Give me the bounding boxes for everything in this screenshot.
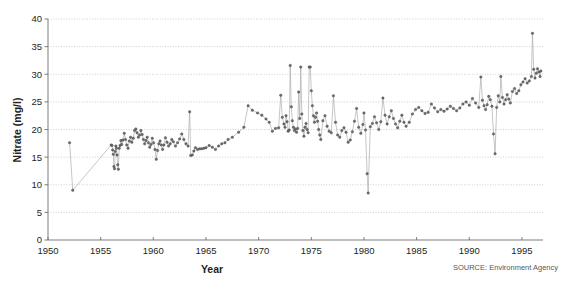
data-point-marker — [314, 116, 317, 119]
data-point-marker — [373, 116, 376, 119]
data-point-marker — [123, 132, 126, 135]
data-point-marker — [384, 114, 387, 117]
data-point-marker — [118, 147, 121, 150]
data-point-marker — [155, 158, 158, 161]
data-point-marker — [492, 133, 495, 136]
data-point-marker — [117, 168, 120, 171]
data-point-marker — [499, 101, 502, 104]
data-point-marker — [135, 128, 138, 131]
y-tick-label: 25 — [31, 96, 42, 107]
data-point-marker — [304, 126, 307, 129]
data-point-marker — [265, 118, 268, 121]
data-point-marker — [146, 136, 149, 139]
x-tick-label: 1990 — [459, 245, 480, 256]
series-markers — [68, 32, 542, 194]
data-point-marker — [122, 139, 125, 142]
data-point-marker — [388, 116, 391, 119]
data-point-marker — [392, 117, 395, 120]
x-tick-label: 1995 — [511, 245, 532, 256]
data-point-marker — [303, 135, 306, 138]
data-point-marker — [288, 129, 291, 132]
data-point-marker — [414, 108, 417, 111]
data-point-marker — [360, 132, 363, 135]
data-point-marker — [377, 128, 380, 131]
data-point-marker — [343, 127, 346, 130]
data-point-marker — [224, 142, 227, 145]
data-point-marker — [280, 94, 283, 97]
data-point-marker — [345, 131, 348, 134]
data-point-marker — [147, 142, 150, 145]
data-point-marker — [167, 145, 170, 148]
data-point-marker — [152, 142, 155, 145]
x-tick-label: 1955 — [90, 245, 111, 256]
gridlines — [48, 19, 543, 212]
data-point-marker — [436, 111, 439, 114]
data-point-marker — [159, 140, 162, 143]
y-tick-label: 0 — [37, 234, 42, 245]
data-point-marker — [277, 127, 280, 130]
data-point-marker — [112, 153, 115, 156]
data-point-marker — [390, 109, 393, 112]
y-tick-label: 10 — [31, 179, 42, 190]
data-point-marker — [291, 119, 294, 122]
data-point-marker — [534, 77, 537, 80]
data-point-marker — [271, 130, 274, 133]
data-point-marker — [111, 149, 114, 152]
data-point-marker — [174, 145, 177, 148]
data-point-marker — [474, 102, 477, 105]
data-point-marker — [261, 114, 264, 117]
data-point-marker — [283, 123, 286, 126]
data-point-marker — [518, 90, 521, 93]
data-point-marker — [530, 75, 533, 78]
data-point-marker — [364, 129, 367, 132]
data-point-marker — [495, 106, 498, 109]
data-point-marker — [309, 66, 312, 69]
data-point-marker — [256, 112, 259, 115]
data-point-marker — [140, 129, 143, 132]
data-point-marker — [508, 98, 511, 101]
y-tick-label: 15 — [31, 152, 42, 163]
data-point-marker — [459, 107, 462, 110]
data-point-marker — [191, 154, 194, 157]
y-axis-title: Nitrate (mg/l) — [11, 98, 23, 163]
data-point-marker — [145, 139, 148, 142]
data-point-marker — [509, 102, 512, 105]
tick-labels: 0510152025303540195019551960196519701975… — [31, 13, 532, 256]
data-point-marker — [217, 145, 220, 148]
data-point-marker — [312, 114, 315, 117]
data-point-marker — [531, 32, 534, 35]
data-point-marker — [148, 146, 151, 149]
data-point-marker — [500, 75, 503, 78]
data-point-marker — [243, 126, 246, 129]
data-point-marker — [193, 150, 196, 153]
data-point-marker — [481, 99, 484, 102]
data-point-marker — [214, 148, 217, 151]
data-point-marker — [478, 106, 481, 109]
data-point-marker — [488, 95, 491, 98]
data-point-marker — [150, 143, 153, 146]
data-point-marker — [386, 123, 389, 126]
data-point-marker — [480, 76, 483, 79]
data-point-marker — [513, 87, 516, 90]
data-point-marker — [143, 143, 146, 146]
data-point-marker — [424, 112, 427, 115]
data-point-marker — [455, 109, 458, 112]
data-point-marker — [465, 101, 468, 104]
y-tick-label: 30 — [31, 69, 42, 80]
nitrate-chart-figure: 0510152025303540195019551960196519701975… — [0, 0, 565, 284]
data-point-marker — [285, 114, 288, 117]
data-point-marker — [332, 95, 335, 98]
data-point-marker — [486, 103, 489, 106]
data-point-marker — [176, 142, 179, 145]
data-point-marker — [317, 128, 320, 131]
data-point-marker — [172, 140, 175, 143]
data-point-marker — [501, 96, 504, 99]
data-point-marker — [183, 138, 186, 141]
data-point-marker — [156, 149, 159, 152]
data-point-marker — [188, 111, 191, 114]
data-point-marker — [151, 137, 154, 140]
data-point-marker — [142, 138, 145, 141]
data-point-marker — [408, 121, 411, 124]
data-point-marker — [349, 139, 352, 142]
data-point-marker — [171, 138, 174, 141]
